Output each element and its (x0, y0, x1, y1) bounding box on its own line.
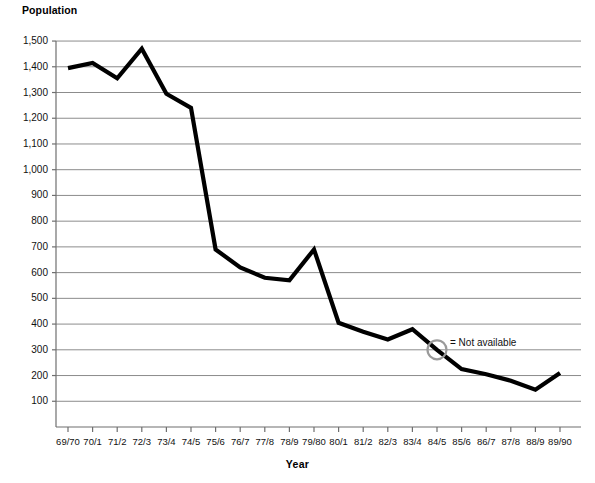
x-tick-label: 78/9 (280, 437, 299, 447)
chart-plot-area (0, 0, 595, 483)
x-tick-label: 75/6 (206, 437, 225, 447)
y-tick-label: 1,100 (4, 139, 48, 149)
population-line-chart: Population 1,5001,4001,3001,2001,1001,00… (0, 0, 595, 483)
y-tick-label: 1,200 (4, 113, 48, 123)
y-tick-label: 700 (4, 242, 48, 252)
x-tick-label: 71/2 (108, 437, 127, 447)
y-tick-label: 1,300 (4, 88, 48, 98)
x-tick-label: 83/4 (403, 437, 422, 447)
y-tick-label: 1,000 (4, 165, 48, 175)
x-axis-title: Year (0, 458, 595, 470)
x-tick-label: 77/8 (256, 437, 275, 447)
x-tick-label: 88/9 (526, 437, 545, 447)
y-tick-label: 200 (4, 371, 48, 381)
y-tick-label: 800 (4, 216, 48, 226)
y-tick-label: 100 (4, 396, 48, 406)
x-tick-label: 89/90 (548, 437, 572, 447)
y-tick-label: 600 (4, 268, 48, 278)
x-tick-label: 70/1 (83, 437, 102, 447)
x-tick-label: 82/3 (379, 437, 398, 447)
x-tick-label: 80/1 (329, 437, 348, 447)
x-tick-label: 76/7 (231, 437, 250, 447)
x-tick-label: 84/5 (428, 437, 447, 447)
x-tick-label: 85/6 (452, 437, 471, 447)
y-tick-label: 400 (4, 319, 48, 329)
x-tick-label: 79/80 (302, 437, 326, 447)
x-tick-label: 73/4 (157, 437, 176, 447)
axis-lines (56, 41, 581, 427)
x-tick-label: 72/3 (133, 437, 152, 447)
y-tick-label: 1,500 (4, 36, 48, 46)
x-tick-label: 81/2 (354, 437, 373, 447)
y-tick-label: 900 (4, 190, 48, 200)
x-tick-label: 74/5 (182, 437, 201, 447)
y-tick-label: 300 (4, 345, 48, 355)
not-available-label: = Not available (450, 337, 516, 348)
x-axis-ticks (68, 427, 560, 432)
x-tick-label: 86/7 (477, 437, 496, 447)
y-tick-label: 500 (4, 293, 48, 303)
x-tick-label: 87/8 (502, 437, 521, 447)
x-tick-label: 69/70 (56, 437, 80, 447)
y-tick-label: 1,400 (4, 62, 48, 72)
